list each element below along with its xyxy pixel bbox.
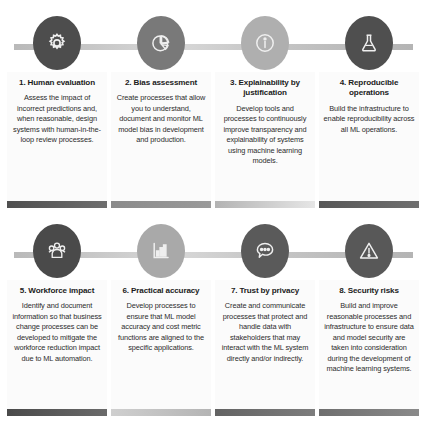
divider-bar	[319, 201, 419, 208]
card-title: 2. Bias assessment	[114, 78, 208, 88]
card-text: Develop processes to ensure that ML mode…	[114, 301, 208, 354]
bottom-row: 5. Workforce impact Identify and documen…	[0, 222, 427, 422]
bar-chart-icon	[149, 239, 173, 263]
icon-circle-wrap	[137, 14, 185, 72]
card-title: 5. Workforce impact	[10, 286, 104, 296]
icon-circle	[241, 16, 289, 70]
card-text: Build the infrastructure to enable repro…	[322, 104, 416, 136]
divider-bar	[319, 409, 419, 416]
card-title: 3. Explainability by justification	[218, 78, 312, 99]
divider-bar	[215, 201, 315, 208]
card-title: 1. Human evaluation	[10, 78, 104, 88]
bottom-row-cards: 5. Workforce impact Identify and documen…	[7, 222, 420, 414]
card-body: 5. Workforce impact Identify and documen…	[7, 280, 107, 414]
icon-circle-wrap	[345, 14, 393, 72]
card-security-risks[interactable]: 8. Security risks Build and improve reas…	[319, 222, 419, 414]
card-body: 6. Practical accuracy Develop processes …	[111, 280, 211, 414]
icon-circle-wrap	[33, 14, 81, 72]
card-bias-assessment[interactable]: 2. Bias assessment Create processes that…	[111, 14, 211, 206]
card-body: 3. Explainability by justification Devel…	[215, 72, 315, 206]
card-text: Create and communicate processes that pr…	[218, 301, 312, 364]
icon-circle-wrap	[241, 14, 289, 72]
middle-divider-bars	[7, 201, 420, 208]
card-title: 4. Reproducible operations	[322, 78, 416, 99]
people-group-icon	[45, 239, 69, 263]
warning-triangle-icon	[357, 239, 381, 263]
card-body: 8. Security risks Build and improve reas…	[319, 280, 419, 414]
icon-circle	[137, 16, 185, 70]
card-trust-by-privacy[interactable]: 7. Trust by privacy Create and communica…	[215, 222, 315, 414]
icon-circle	[345, 16, 393, 70]
speech-bubble-icon	[253, 239, 277, 263]
card-text: Develop tools and processes to continuou…	[218, 104, 312, 167]
pie-chart-icon	[149, 31, 173, 55]
cut-off-header-text	[0, 0, 427, 7]
card-title: 7. Trust by privacy	[218, 286, 312, 296]
divider-bar	[111, 201, 211, 208]
card-text: Identify and document information so tha…	[10, 301, 104, 364]
icon-circle-wrap	[241, 222, 289, 280]
card-reproducible-operations[interactable]: 4. Reproducible operations Build the inf…	[319, 14, 419, 206]
card-practical-accuracy[interactable]: 6. Practical accuracy Develop processes …	[111, 222, 211, 414]
card-explainability-by-justification[interactable]: 3. Explainability by justification Devel…	[215, 14, 315, 206]
card-text: Build and improve reasonable processes a…	[322, 301, 416, 375]
card-body: 4. Reproducible operations Build the inf…	[319, 72, 419, 206]
card-text: Assess the impact of incorrect predictio…	[10, 93, 104, 146]
divider-bar	[7, 201, 107, 208]
icon-circle	[33, 16, 81, 70]
icon-circle	[33, 224, 81, 278]
card-body: 7. Trust by privacy Create and communica…	[215, 280, 315, 414]
card-title: 6. Practical accuracy	[114, 286, 208, 296]
card-human-evaluation[interactable]: 1. Human evaluation Assess the impact of…	[7, 14, 107, 206]
icon-circle	[137, 224, 185, 278]
divider-bar	[215, 409, 315, 416]
top-row: 1. Human evaluation Assess the impact of…	[0, 14, 427, 214]
icon-circle	[345, 224, 393, 278]
gear-icon	[45, 31, 69, 55]
icon-circle	[241, 224, 289, 278]
icon-circle-wrap	[137, 222, 185, 280]
ml-best-practices-infographic: 1. Human evaluation Assess the impact of…	[0, 0, 427, 428]
card-body: 2. Bias assessment Create processes that…	[111, 72, 211, 206]
top-row-cards: 1. Human evaluation Assess the impact of…	[7, 14, 420, 206]
card-body: 1. Human evaluation Assess the impact of…	[7, 72, 107, 206]
icon-circle-wrap	[33, 222, 81, 280]
divider-bar	[111, 409, 211, 416]
icon-circle-wrap	[345, 222, 393, 280]
card-workforce-impact[interactable]: 5. Workforce impact Identify and documen…	[7, 222, 107, 414]
info-icon	[253, 31, 277, 55]
divider-bar	[7, 409, 107, 416]
flask-icon	[357, 31, 381, 55]
card-text: Create processes that allow you to under…	[114, 93, 208, 146]
card-title: 8. Security risks	[322, 286, 416, 296]
bottom-divider-bars	[7, 409, 420, 416]
